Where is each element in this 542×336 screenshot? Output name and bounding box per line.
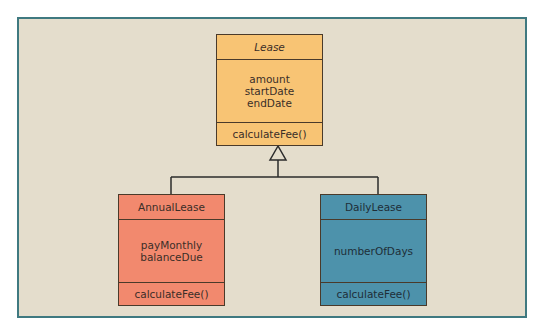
class-attributes: payMonthly balanceDue [119, 220, 224, 283]
class-annual-lease: AnnualLease payMonthly balanceDue calcul… [118, 194, 225, 306]
class-methods: calculateFee() [119, 283, 224, 305]
class-attributes: amount startDate endDate [217, 60, 322, 123]
class-name: Lease [217, 35, 322, 60]
class-lease: Lease amount startDate endDate calculate… [216, 34, 323, 146]
class-name: AnnualLease [119, 195, 224, 220]
attribute: payMonthly [141, 239, 202, 251]
class-name: DailyLease [321, 195, 426, 220]
method: calculateFee() [232, 128, 306, 140]
attribute: startDate [245, 85, 295, 97]
generalization-arrow-icon [270, 146, 286, 160]
attribute: endDate [247, 97, 292, 109]
attribute: numberOfDays [334, 245, 413, 257]
class-daily-lease: DailyLease numberOfDays calculateFee() [320, 194, 427, 306]
class-methods: calculateFee() [217, 123, 322, 145]
method: calculateFee() [336, 288, 410, 300]
method: calculateFee() [134, 288, 208, 300]
class-methods: calculateFee() [321, 283, 426, 305]
class-attributes: numberOfDays [321, 220, 426, 283]
attribute: balanceDue [140, 251, 203, 263]
attribute: amount [249, 73, 290, 85]
